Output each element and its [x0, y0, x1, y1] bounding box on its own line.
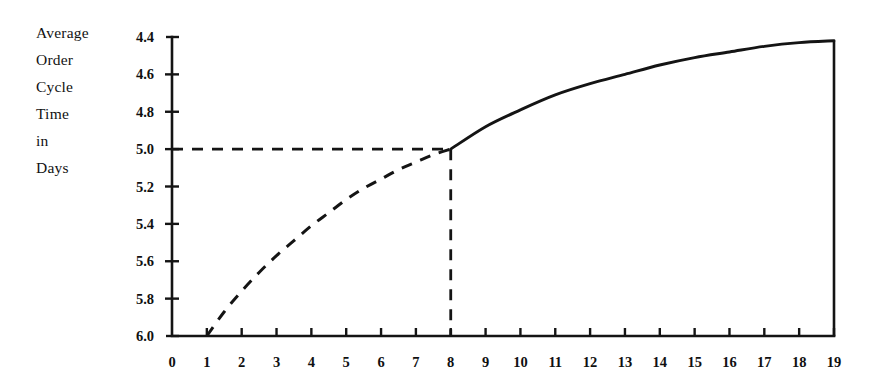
- y-axis-tick-label: 5.8: [136, 291, 154, 307]
- y-axis-title-line-1: Average: [36, 24, 89, 41]
- x-axis-tick-label: 17: [757, 354, 772, 370]
- x-axis-tick-label: 9: [482, 354, 489, 370]
- chart-container: Average Order Cycle Time in Days 4.44.64…: [0, 0, 875, 383]
- y-axis-tick-label: 5.4: [136, 216, 154, 232]
- x-axis-tick-label: 0: [168, 354, 175, 370]
- y-axis-tick-labels: 4.44.64.85.05.25.45.65.86.0: [136, 29, 154, 344]
- chart-canvas: Average Order Cycle Time in Days 4.44.64…: [0, 0, 875, 383]
- x-axis-tick-label: 16: [722, 354, 737, 370]
- y-axis-title-line-4: Time: [36, 105, 69, 122]
- x-axis-tick-label: 5: [343, 354, 350, 370]
- x-axis-tick-label: 12: [583, 354, 598, 370]
- x-axis-tick-label: 4: [308, 354, 315, 370]
- x-axis-tick-label: 2: [238, 354, 245, 370]
- x-axis-tick-label: 18: [792, 354, 807, 370]
- x-axis-tick-label: 14: [653, 354, 668, 370]
- y-axis-tick-label: 6.0: [136, 328, 154, 344]
- x-axis-tick-label: 1: [203, 354, 210, 370]
- y-axis-title-line-3: Cycle: [36, 78, 73, 95]
- x-axis-tick-label: 15: [687, 354, 702, 370]
- y-axis-tick-label: 4.4: [136, 29, 154, 45]
- x-axis-tick-labels: 012345678910111213141516171819: [168, 354, 841, 370]
- y-axis-title-line-2: Order: [36, 51, 74, 68]
- y-axis-tick-label: 4.6: [136, 66, 154, 82]
- x-axis-tick-label: 19: [827, 354, 842, 370]
- x-axis-tick-label: 8: [447, 354, 454, 370]
- y-axis-tick-label: 5.0: [136, 141, 154, 157]
- y-axis-title-line-5: in: [36, 132, 49, 149]
- x-axis-tick-label: 6: [377, 354, 384, 370]
- x-axis-tick-label: 3: [273, 354, 280, 370]
- y-axis-tick-label: 5.2: [136, 179, 154, 195]
- series-projected-line: [207, 149, 451, 336]
- x-axis-tick-label: 11: [548, 354, 562, 370]
- y-axis-title-line-6: Days: [36, 159, 69, 176]
- series-observed-line: [451, 41, 834, 149]
- axis-lines: [172, 37, 834, 336]
- x-axis-tick-label: 7: [412, 354, 419, 370]
- x-axis-tick-label: 13: [618, 354, 633, 370]
- y-axis-title: Average Order Cycle Time in Days: [36, 24, 89, 176]
- y-axis-tick-label: 5.6: [136, 253, 154, 269]
- x-axis-tick-label: 10: [513, 354, 528, 370]
- y-axis-tick-label: 4.8: [136, 104, 154, 120]
